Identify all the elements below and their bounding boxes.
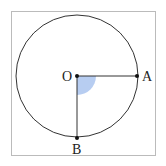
point-a [135,74,139,78]
point-o [75,74,79,78]
label-b: B [72,142,81,157]
point-b [75,136,79,140]
diagram-canvas: O A B [0,0,166,166]
right-angle-sector [77,76,96,95]
label-o: O [62,69,72,84]
label-a: A [142,69,153,84]
